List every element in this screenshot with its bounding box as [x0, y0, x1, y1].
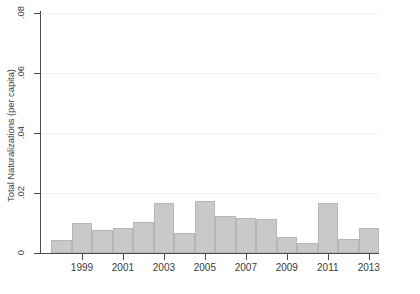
y-tick-label-text: .04 [16, 126, 27, 139]
bar [113, 228, 133, 254]
x-tick-label: 2013 [349, 262, 389, 273]
bar [359, 228, 379, 254]
x-tick-mark [123, 254, 124, 260]
naturalizations-bar-chart: Total Naturalizations (per capita) 0.02.… [0, 0, 420, 294]
bar [92, 230, 112, 253]
x-tick-label: 2011 [308, 262, 348, 273]
bar [133, 222, 153, 253]
bar [277, 237, 297, 254]
y-tick-label: .02 [0, 187, 34, 199]
bar [297, 243, 317, 254]
y-tick-mark [34, 253, 41, 254]
x-tick-mark [82, 254, 83, 260]
y-tick-label-text: .02 [16, 186, 27, 199]
y-tick-label: .08 [0, 7, 34, 19]
y-tick-label-text: .08 [16, 6, 27, 19]
x-tick-label: 2001 [103, 262, 143, 273]
bar [51, 240, 71, 253]
x-tick-mark [369, 254, 370, 260]
x-tick-label: 2005 [185, 262, 225, 273]
y-tick-mark [34, 73, 41, 74]
y-tick-mark [34, 133, 41, 134]
x-tick-mark [205, 254, 206, 260]
y-tick-label: 0 [0, 247, 34, 259]
bar [154, 203, 174, 253]
x-tick-label: 2003 [144, 262, 184, 273]
bar [195, 201, 215, 254]
bar [256, 219, 276, 253]
x-tick-mark [164, 254, 165, 260]
y-tick-mark [34, 13, 41, 14]
x-tick-label: 2009 [267, 262, 307, 273]
y-tick-label-text: 0 [15, 250, 26, 255]
plot-area [41, 13, 379, 253]
x-tick-mark [287, 254, 288, 260]
bar [174, 233, 194, 253]
bar [318, 203, 338, 253]
x-tick-label: 1999 [62, 262, 102, 273]
bar [236, 218, 256, 253]
bar [72, 223, 92, 253]
y-tick-label-text: .06 [16, 66, 27, 79]
y-tick-mark [34, 193, 41, 194]
x-tick-mark [246, 254, 247, 260]
bar [338, 239, 358, 253]
bar [215, 216, 235, 254]
y-tick-label: .04 [0, 127, 34, 139]
x-tick-mark [328, 254, 329, 260]
x-tick-label: 2007 [226, 262, 266, 273]
y-tick-label: .06 [0, 67, 34, 79]
